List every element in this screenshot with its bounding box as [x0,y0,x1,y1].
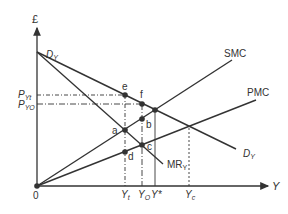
demand-label-top: DY [46,49,59,61]
demand-curve [37,52,236,149]
origin-label: 0 [33,190,39,201]
mr-label: MRY [167,159,188,171]
point-a [122,127,128,133]
point-c [139,142,145,148]
point-label-d: d [128,151,134,162]
point-e [122,92,128,98]
point-b [139,116,145,122]
demand-label-bottom: DY [243,148,256,160]
point-f [139,101,145,107]
pmc-label: PMC [247,87,269,98]
origin-point [34,183,40,189]
x-axis-label: Y [272,180,280,192]
point-ystar [152,107,158,113]
point-label-c: c [147,141,152,152]
point-label-a: a [112,125,118,136]
mr-curve [37,52,163,164]
quantity-label-yo: YO [138,189,151,201]
point-d [122,149,128,155]
y-axis-label: £ [32,13,38,25]
point-label-e: e [122,81,128,92]
quantity-label-ystar: Y* [151,189,163,200]
externality-diagram: £ Y 0 DY DY MRY SMC PMC PYt PYO Yt YO Y*… [0,0,288,214]
smc-label: SMC [224,48,246,59]
point-label-b: b [146,119,152,130]
point-label-f: f [140,89,143,100]
quantity-label-yt: Yt [121,189,131,201]
quantity-label-yc: Yc [185,189,196,201]
